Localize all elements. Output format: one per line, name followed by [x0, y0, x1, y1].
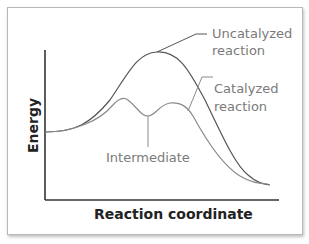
catalyzed-leader: [188, 77, 213, 111]
uncatalyzed-label-1: Uncatalyzed: [212, 26, 292, 41]
catalyzed-label-1: Catalyzed: [214, 81, 279, 96]
intermediate-label: Intermediate: [106, 150, 190, 165]
uncatalyzed-curve: [45, 52, 270, 185]
uncatalyzed-label-2: reaction: [212, 43, 265, 58]
y-axis-label: Energy: [25, 98, 41, 153]
x-axis-label: Reaction coordinate: [94, 206, 253, 222]
uncatalyzed-leader: [157, 34, 207, 52]
catalyzed-label-2: reaction: [214, 99, 267, 114]
energy-diagram: Uncatalyzed reaction Catalyzed reaction …: [0, 0, 309, 244]
